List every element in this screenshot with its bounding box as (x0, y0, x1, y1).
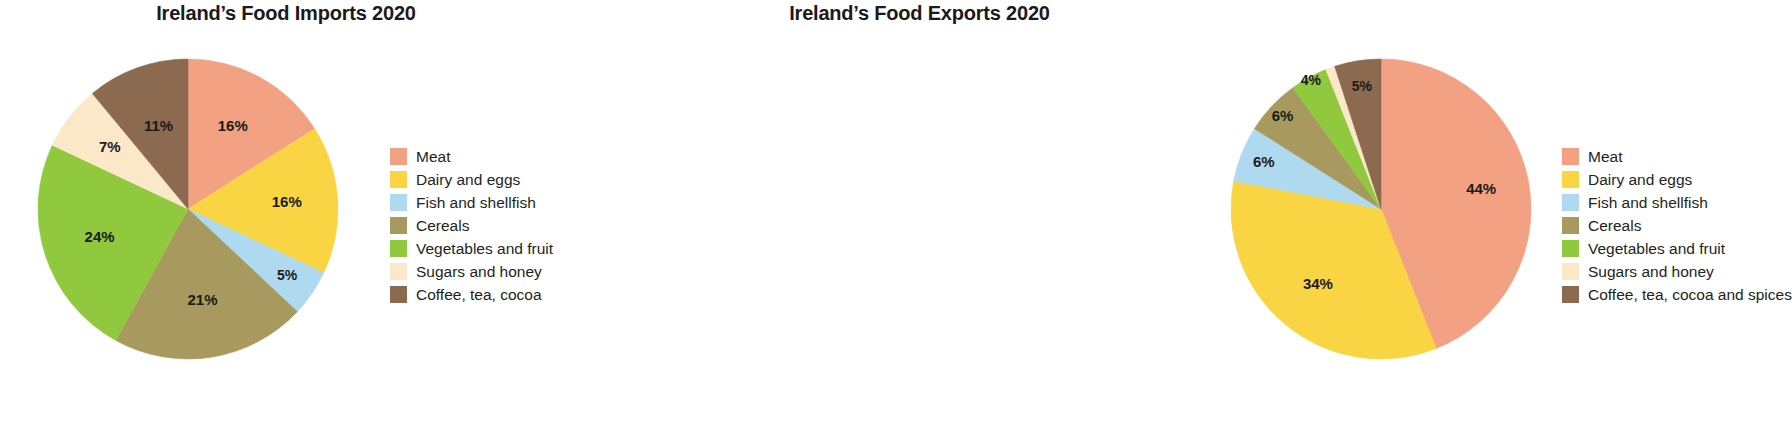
imports-chart-panel: Ireland’s Food Imports 2020 16%16%5%21%2… (0, 0, 600, 423)
legend-item[interactable]: Coffee, tea, cocoa and spices (1562, 283, 1792, 306)
pie-slice-value-label: 6% (1272, 107, 1294, 124)
legend-color-swatch-icon (390, 240, 407, 257)
legend-item-label: Meat (1588, 149, 1622, 165)
legend-item[interactable]: Coffee, tea, cocoa (390, 283, 553, 306)
pie-slice-value-label: 7% (99, 138, 121, 155)
legend-item-label: Sugars and honey (1588, 264, 1714, 280)
legend-item[interactable]: Fish and shellfish (1562, 191, 1792, 214)
exports-chart-title: Ireland’s Food Exports 2020 (608, 2, 1231, 25)
legend-color-swatch-icon (1562, 171, 1579, 188)
pie-slice-value-label: 4% (1301, 72, 1322, 88)
legend-color-swatch-icon (1562, 286, 1579, 303)
legend-color-swatch-icon (1562, 194, 1579, 211)
pie-slice-value-label: 34% (1303, 275, 1333, 292)
legend-item-label: Coffee, tea, cocoa (416, 287, 542, 303)
legend-color-swatch-icon (390, 171, 407, 188)
legend-color-swatch-icon (1562, 240, 1579, 257)
legend-item-label: Vegetables and fruit (416, 241, 553, 257)
legend-item-label: Coffee, tea, cocoa and spices (1588, 287, 1792, 303)
exports-pie-svg: 44%34%6%6%4%1%5% (1230, 58, 1532, 360)
pie-slice-value-label: 16% (218, 117, 248, 134)
legend-color-swatch-icon (390, 148, 407, 165)
pie-slice-value-label: 6% (1253, 153, 1275, 170)
legend-item-label: Cereals (416, 218, 469, 234)
legend-item[interactable]: Dairy and eggs (1562, 168, 1792, 191)
legend-color-swatch-icon (1562, 263, 1579, 280)
imports-chart-title: Ireland’s Food Imports 2020 (0, 2, 586, 25)
legend-item[interactable]: Vegetables and fruit (1562, 237, 1792, 260)
legend-item[interactable]: Vegetables and fruit (390, 237, 553, 260)
legend-color-swatch-icon (390, 217, 407, 234)
legend-item[interactable]: Cereals (390, 214, 553, 237)
imports-legend: MeatDairy and eggsFish and shellfishCere… (390, 145, 553, 306)
legend-item[interactable]: Meat (390, 145, 553, 168)
exports-chart-panel: Ireland’s Food Exports 2020 44%34%6%6%4%… (600, 0, 1223, 423)
legend-item[interactable]: Fish and shellfish (390, 191, 553, 214)
legend-item[interactable]: Dairy and eggs (390, 168, 553, 191)
legend-item-label: Dairy and eggs (416, 172, 520, 188)
legend-color-swatch-icon (390, 263, 407, 280)
legend-item-label: Sugars and honey (416, 264, 542, 280)
pie-slice-value-label: 5% (1352, 78, 1373, 94)
pie-slice-value-label: 5% (277, 267, 298, 283)
imports-pie-chart: 16%16%5%21%24%7%11% (37, 58, 339, 360)
pie-slice-value-label: 11% (144, 117, 173, 134)
legend-item[interactable]: Meat (1562, 145, 1792, 168)
legend-color-swatch-icon (1562, 217, 1579, 234)
legend-item-label: Cereals (1588, 218, 1641, 234)
imports-pie-svg: 16%16%5%21%24%7%11% (37, 58, 339, 360)
legend-item-label: Fish and shellfish (416, 195, 536, 211)
pie-slice-value-label: 24% (85, 228, 115, 245)
legend-color-swatch-icon (390, 286, 407, 303)
legend-color-swatch-icon (1562, 148, 1579, 165)
legend-item-label: Meat (416, 149, 450, 165)
legend-item[interactable]: Cereals (1562, 214, 1792, 237)
legend-item[interactable]: Sugars and honey (1562, 260, 1792, 283)
legend-item-label: Fish and shellfish (1588, 195, 1708, 211)
pie-slice-value-label: 44% (1466, 180, 1496, 197)
legend-item-label: Vegetables and fruit (1588, 241, 1725, 257)
exports-pie-chart: 44%34%6%6%4%1%5% (1230, 58, 1532, 360)
pie-slice-value-label: 16% (272, 193, 302, 210)
legend-color-swatch-icon (390, 194, 407, 211)
legend-item[interactable]: Sugars and honey (390, 260, 553, 283)
exports-legend: MeatDairy and eggsFish and shellfishCere… (1562, 145, 1792, 306)
legend-item-label: Dairy and eggs (1588, 172, 1692, 188)
pie-slice-value-label: 21% (187, 291, 217, 308)
